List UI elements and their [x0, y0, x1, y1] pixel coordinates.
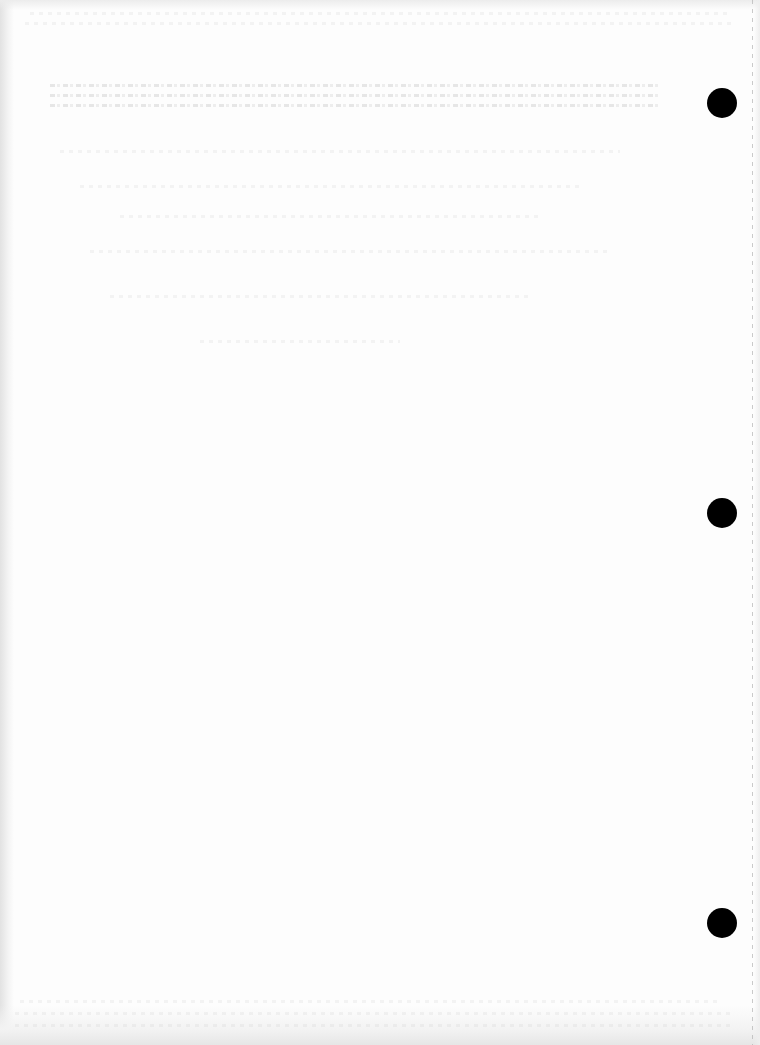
perforation-line — [752, 0, 753, 1045]
left-edge-shadow — [0, 0, 14, 1045]
punch-hole-bottom — [707, 908, 737, 938]
scanned-page — [0, 0, 760, 1045]
punch-hole-top — [707, 88, 737, 118]
right-edge-shadow — [754, 0, 760, 1045]
punch-hole-middle — [707, 498, 737, 528]
top-edge-shadow — [0, 0, 760, 10]
